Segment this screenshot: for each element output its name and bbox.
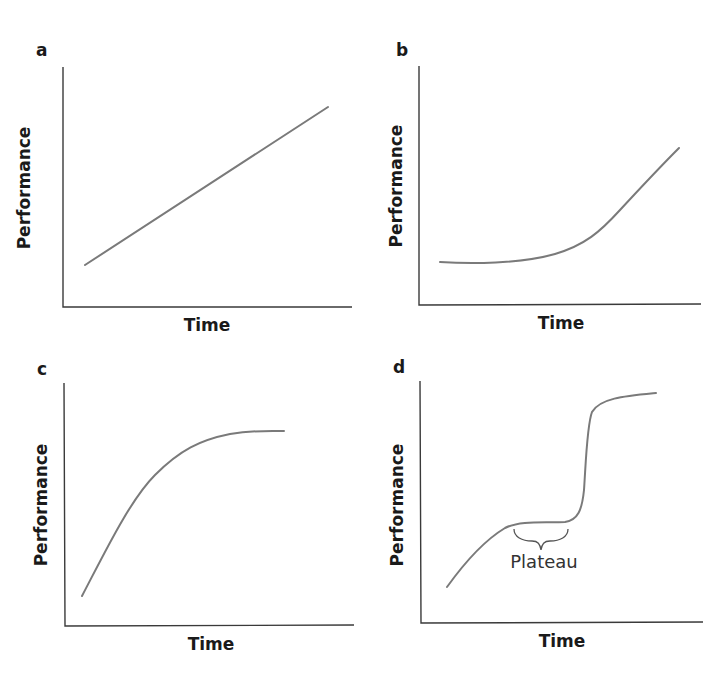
axes-b <box>419 66 701 305</box>
x-axis-label-c: Time <box>188 634 235 654</box>
axes-c <box>64 383 354 626</box>
curve-b <box>440 148 679 263</box>
y-axis-label-d: Performance <box>387 444 407 567</box>
panel-letter-b: b <box>396 40 408 60</box>
panel-a: a Performance Time <box>14 40 352 335</box>
x-axis-label-b: Time <box>538 313 585 333</box>
panel-letter-a: a <box>36 40 47 60</box>
y-axis-label-c: Performance <box>31 444 51 567</box>
panel-letter-d: d <box>393 357 405 377</box>
x-axis-label-d: Time <box>539 631 586 651</box>
plateau-brace-icon <box>514 529 568 550</box>
learning-curves-figure: a Performance Time b Performance Time c … <box>0 0 723 681</box>
plateau-annotation: Plateau <box>510 551 577 572</box>
curve-c <box>82 431 284 596</box>
panel-c: c Performance Time <box>31 359 354 654</box>
curve-a <box>85 107 328 265</box>
axes-d <box>420 381 703 623</box>
panel-d: d Performance Time Plateau <box>387 357 703 651</box>
x-axis-label-a: Time <box>184 315 231 335</box>
axes-a <box>63 67 352 307</box>
panel-b: b Performance Time <box>386 40 701 333</box>
y-axis-label-b: Performance <box>386 125 406 248</box>
panel-letter-c: c <box>37 359 47 379</box>
y-axis-label-a: Performance <box>14 127 34 250</box>
